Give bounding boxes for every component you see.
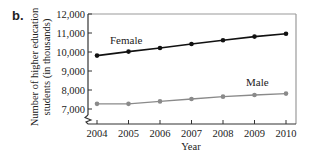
data-point <box>221 38 226 43</box>
y-tick-label: 11,000 <box>57 28 86 39</box>
y-tick-label: 8,000 <box>61 85 85 96</box>
x-tick-label: 2007 <box>181 128 202 139</box>
data-point <box>158 99 163 104</box>
y-axis: 7,0008,0009,00010,00011,00012,000 <box>56 9 92 115</box>
data-point <box>158 46 163 51</box>
y-axis-title-line-2: students (in thousands) <box>41 18 53 115</box>
x-axis: 2004200520062007200820092010 <box>87 120 297 139</box>
chart-container: b. Number of higher education students (… <box>0 0 311 158</box>
data-point <box>252 34 257 39</box>
x-tick-label: 2004 <box>87 128 109 139</box>
series-male <box>95 91 289 106</box>
x-tick-label: 2008 <box>213 128 234 139</box>
x-tick-label: 2006 <box>150 128 171 139</box>
data-point <box>189 42 194 47</box>
y-axis-title: Number of higher education students (in … <box>29 7 53 126</box>
x-axis-title: Year <box>181 141 201 152</box>
y-tick-label: 12,000 <box>56 9 85 20</box>
data-point <box>95 102 100 107</box>
data-point <box>95 53 100 58</box>
data-point <box>126 102 131 107</box>
data-point <box>284 91 289 96</box>
x-tick-label: 2009 <box>244 128 265 139</box>
y-tick-label: 9,000 <box>61 66 85 77</box>
data-point <box>189 97 194 102</box>
data-point <box>252 93 257 98</box>
series-label-female: Female <box>110 34 142 46</box>
panel-label: b. <box>12 8 24 23</box>
plot-frame <box>85 14 296 124</box>
axis-break-icon <box>85 115 91 124</box>
x-tick-label: 2005 <box>118 128 139 139</box>
series-label-male: Male <box>246 76 269 88</box>
x-tick-label: 2010 <box>276 128 297 139</box>
data-point <box>284 31 289 36</box>
y-tick-label: 10,000 <box>56 47 85 58</box>
data-point <box>126 49 131 54</box>
line-chart: b. Number of higher education students (… <box>0 0 311 158</box>
data-point <box>221 94 226 99</box>
y-axis-title-line-1: Number of higher education <box>29 7 40 126</box>
y-tick-label: 7,000 <box>61 104 85 115</box>
